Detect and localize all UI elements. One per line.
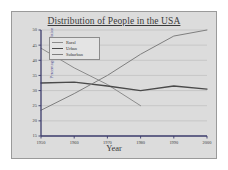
chart-legend: RuralUrbanSuburban — [49, 37, 100, 60]
plot-area — [12, 12, 218, 160]
x-tick-label: 2000 — [197, 140, 217, 145]
y-tick-label: 40 — [25, 58, 37, 63]
y-tick-label: 20 — [25, 118, 37, 123]
chart-figure: Distribution of People in the USA Percen… — [11, 11, 217, 159]
legend-label: Suburban — [66, 52, 83, 58]
y-tick-label: 30 — [25, 88, 37, 93]
y-tick-label: 25 — [25, 103, 37, 108]
y-tick-label: 35 — [25, 73, 37, 78]
x-tick-label: 1980 — [131, 140, 151, 145]
series-line-urban — [41, 82, 207, 90]
legend-swatch-icon — [52, 42, 63, 43]
y-tick-label: 15 — [25, 133, 37, 138]
x-tick-label: 1990 — [164, 140, 184, 145]
legend-item-suburban: Suburban — [52, 52, 97, 58]
x-tick-label: 1960 — [64, 140, 84, 145]
legend-swatch-icon — [52, 48, 63, 49]
legend-swatch-icon — [52, 54, 63, 55]
y-tick-label: 45 — [25, 43, 37, 48]
x-tick-label: 1970 — [97, 140, 117, 145]
x-tick-label: 1950 — [31, 140, 51, 145]
y-tick-label: 50 — [25, 27, 37, 32]
